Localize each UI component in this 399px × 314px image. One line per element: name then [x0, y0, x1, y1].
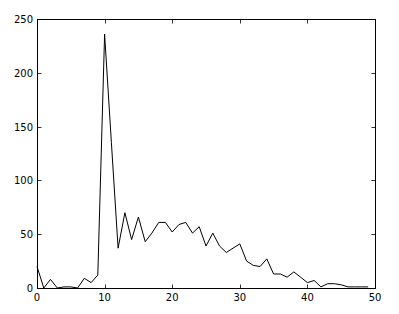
x-tick-label: 50 — [369, 292, 382, 303]
y-tick-label: 150 — [14, 122, 33, 133]
y-tick-label: 250 — [14, 14, 33, 25]
x-tick-label: 10 — [98, 292, 111, 303]
y-tick-label: 100 — [14, 175, 33, 186]
x-tick-label: 0 — [34, 292, 40, 303]
line-chart: 01020304050 050100150200250 — [0, 0, 399, 314]
plot-area — [38, 20, 376, 289]
y-tick-label: 50 — [20, 229, 33, 240]
y-axis-tick-labels: 050100150200250 — [14, 14, 33, 294]
x-tick-label: 20 — [166, 292, 179, 303]
x-axis-tick-labels: 01020304050 — [34, 292, 382, 303]
x-tick-label: 30 — [233, 292, 246, 303]
y-tick-label: 200 — [14, 68, 33, 79]
x-tick-label: 40 — [301, 292, 314, 303]
y-tick-label: 0 — [27, 283, 33, 294]
